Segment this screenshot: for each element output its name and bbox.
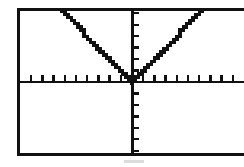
curve-pixel bbox=[194, 13, 198, 17]
y-axis-tick bbox=[134, 127, 140, 129]
y-axis-tick bbox=[134, 35, 140, 37]
curve-pixel bbox=[82, 35, 86, 39]
curve-pixel bbox=[118, 69, 122, 73]
curve-pixel bbox=[137, 75, 141, 79]
x-axis-tick bbox=[52, 75, 54, 80]
curve-pixel bbox=[102, 53, 106, 57]
curve-pixel bbox=[191, 19, 195, 23]
curve-pixel bbox=[150, 60, 154, 64]
y-axis-tick bbox=[134, 92, 140, 94]
y-axis-tick bbox=[134, 115, 140, 117]
graph-plot bbox=[20, 11, 244, 153]
curve-pixel bbox=[175, 35, 179, 39]
curve-pixel bbox=[108, 56, 112, 60]
x-axis-tick bbox=[142, 75, 144, 80]
curve-pixel bbox=[185, 22, 189, 26]
curve-pixel bbox=[178, 28, 182, 32]
curve-pixel bbox=[162, 47, 166, 51]
curve-pixel bbox=[134, 75, 138, 79]
curve-pixel bbox=[76, 25, 80, 29]
x-axis-tick bbox=[41, 75, 43, 80]
curve-pixel bbox=[82, 31, 86, 35]
x-axis-tick bbox=[30, 75, 32, 80]
x-axis-tick bbox=[108, 75, 110, 80]
curve-pixel bbox=[76, 22, 80, 26]
curve-pixel bbox=[98, 47, 102, 51]
curve-pixel bbox=[89, 38, 93, 42]
x-axis-tick bbox=[198, 75, 200, 80]
curve-pixel bbox=[127, 78, 131, 82]
y-axis-tick bbox=[134, 69, 140, 71]
curve-pixel bbox=[108, 60, 112, 64]
x-axis-tick bbox=[120, 75, 122, 80]
curve-pixel bbox=[162, 50, 166, 54]
curve-pixel bbox=[98, 50, 102, 54]
calculator-screen bbox=[0, 0, 244, 167]
curve-pixel bbox=[178, 31, 182, 35]
curve-pixel bbox=[166, 44, 170, 48]
curve-pixel bbox=[159, 53, 163, 57]
curve-pixel bbox=[95, 47, 99, 51]
curve-pixel bbox=[134, 78, 138, 82]
curve-pixel bbox=[185, 25, 189, 29]
y-axis-tick bbox=[134, 12, 140, 14]
curve-pixel bbox=[82, 28, 86, 32]
curve-pixel bbox=[105, 53, 109, 57]
curve-pixel bbox=[198, 13, 202, 17]
curve-pixel bbox=[130, 78, 134, 82]
curve-pixel bbox=[175, 38, 179, 42]
curve-pixel bbox=[111, 63, 115, 67]
curve-pixel bbox=[102, 50, 106, 54]
curve-pixel bbox=[66, 13, 70, 17]
curve-pixel bbox=[92, 44, 96, 48]
curve-pixel bbox=[153, 60, 157, 64]
x-axis-tick bbox=[164, 75, 166, 80]
y-axis-tick bbox=[134, 150, 140, 152]
curve-pixel bbox=[70, 16, 74, 20]
curve-pixel bbox=[182, 28, 186, 32]
curve-pixel bbox=[111, 60, 115, 64]
curve-pixel bbox=[140, 72, 144, 76]
curve-pixel bbox=[172, 41, 176, 45]
curve-pixel bbox=[79, 25, 83, 29]
x-axis-tick bbox=[153, 75, 155, 80]
curve-pixel bbox=[191, 16, 195, 20]
curve-pixel bbox=[86, 35, 90, 39]
curve-pixel bbox=[66, 16, 70, 20]
plot-area[interactable] bbox=[20, 11, 244, 153]
curve-pixel bbox=[124, 75, 128, 79]
curve-pixel bbox=[63, 13, 67, 17]
curve-pixel bbox=[105, 56, 109, 60]
curve-pixel bbox=[156, 56, 160, 60]
y-axis-tick bbox=[134, 104, 140, 106]
curve-pixel bbox=[143, 66, 147, 70]
curve-pixel bbox=[146, 63, 150, 67]
x-axis-tick bbox=[97, 75, 99, 80]
curve-pixel bbox=[169, 41, 173, 45]
curve-pixel bbox=[127, 75, 131, 79]
x-axis-tick bbox=[75, 75, 77, 80]
curve-pixel bbox=[198, 11, 202, 13]
curve-pixel bbox=[130, 82, 134, 86]
curve-pixel bbox=[156, 53, 160, 57]
curve-pixel bbox=[182, 25, 186, 29]
curve-pixel bbox=[79, 28, 83, 32]
curve-pixel bbox=[172, 38, 176, 42]
curve-pixel bbox=[188, 19, 192, 23]
x-axis-tick bbox=[232, 75, 234, 80]
curve-pixel bbox=[178, 35, 182, 39]
curve-pixel bbox=[166, 47, 170, 51]
x-axis-tick bbox=[220, 75, 222, 80]
curve-pixel bbox=[159, 50, 163, 54]
curve-pixel bbox=[188, 22, 192, 26]
x-axis-tick bbox=[209, 75, 211, 80]
curve-pixel bbox=[201, 11, 205, 13]
graph-frame bbox=[17, 8, 244, 156]
y-axis-tick bbox=[134, 138, 140, 140]
curve-pixel bbox=[150, 63, 154, 67]
y-axis-tick bbox=[134, 58, 140, 60]
curve-pixel bbox=[140, 69, 144, 73]
curve-pixel bbox=[70, 19, 74, 23]
screen-edge-artifact bbox=[124, 160, 144, 163]
curve-pixel bbox=[169, 44, 173, 48]
